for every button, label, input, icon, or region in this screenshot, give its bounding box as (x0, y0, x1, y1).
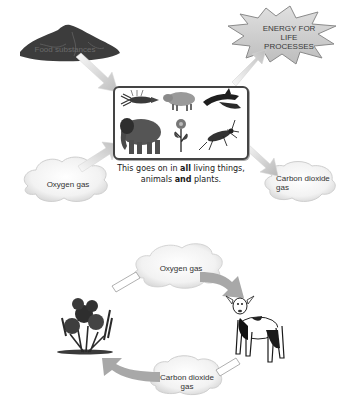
cycle-co2-line-2: gas (152, 382, 222, 391)
dolphin-icon (203, 88, 241, 109)
caption-line-2: animals and plants. (108, 174, 254, 185)
cycle-co2-line-1: Carbon dioxide (152, 373, 222, 382)
organisms-box (113, 86, 249, 160)
caption-emphasis: all (180, 164, 191, 173)
oxygen-gas-label: Oxygen gas (36, 180, 100, 189)
co2-label-line-2: gas (276, 183, 340, 192)
co2-label-line-1: Carbon dioxide (276, 174, 340, 183)
caption-text: This goes on (117, 164, 170, 173)
lamb-icon (226, 296, 284, 362)
cycle-carbon-dioxide-label: Carbon dioxide gas (152, 373, 222, 391)
arrow-oxygen-to-lamb (200, 272, 244, 298)
caption-text: living things, (191, 164, 245, 173)
caption-text: plants. (191, 175, 221, 184)
pig-icon (163, 92, 195, 111)
cycle-oxygen-gas-label: Oxygen gas (146, 264, 216, 273)
energy-label-line-1: ENERGY FOR (250, 24, 328, 33)
caption-text: animals (141, 175, 175, 184)
organisms-caption: This goes on in all living things, anima… (108, 163, 254, 185)
food-substances-label: Food substances (30, 45, 100, 54)
energy-label-line-3: PROCESSES (250, 42, 328, 51)
flower-icon (174, 119, 188, 152)
plant-icon (57, 298, 113, 355)
caption-text: in (170, 164, 180, 173)
insect-icon (199, 120, 239, 150)
energy-label: ENERGY FOR LIFE PROCESSES (250, 24, 328, 51)
energy-label-line-2: LIFE (250, 33, 328, 42)
elephant-icon (120, 118, 161, 154)
cycle-arc-oxygen-tail (112, 272, 140, 292)
caption-emphasis: and (175, 175, 192, 184)
diagram-canvas (0, 0, 360, 419)
food-pile-icon (20, 25, 120, 62)
caption-line-1: This goes on in all living things, (108, 163, 254, 174)
lobster-icon (121, 90, 159, 106)
carbon-dioxide-label: Carbon dioxide gas (270, 174, 340, 192)
organisms-illustration (115, 88, 247, 158)
